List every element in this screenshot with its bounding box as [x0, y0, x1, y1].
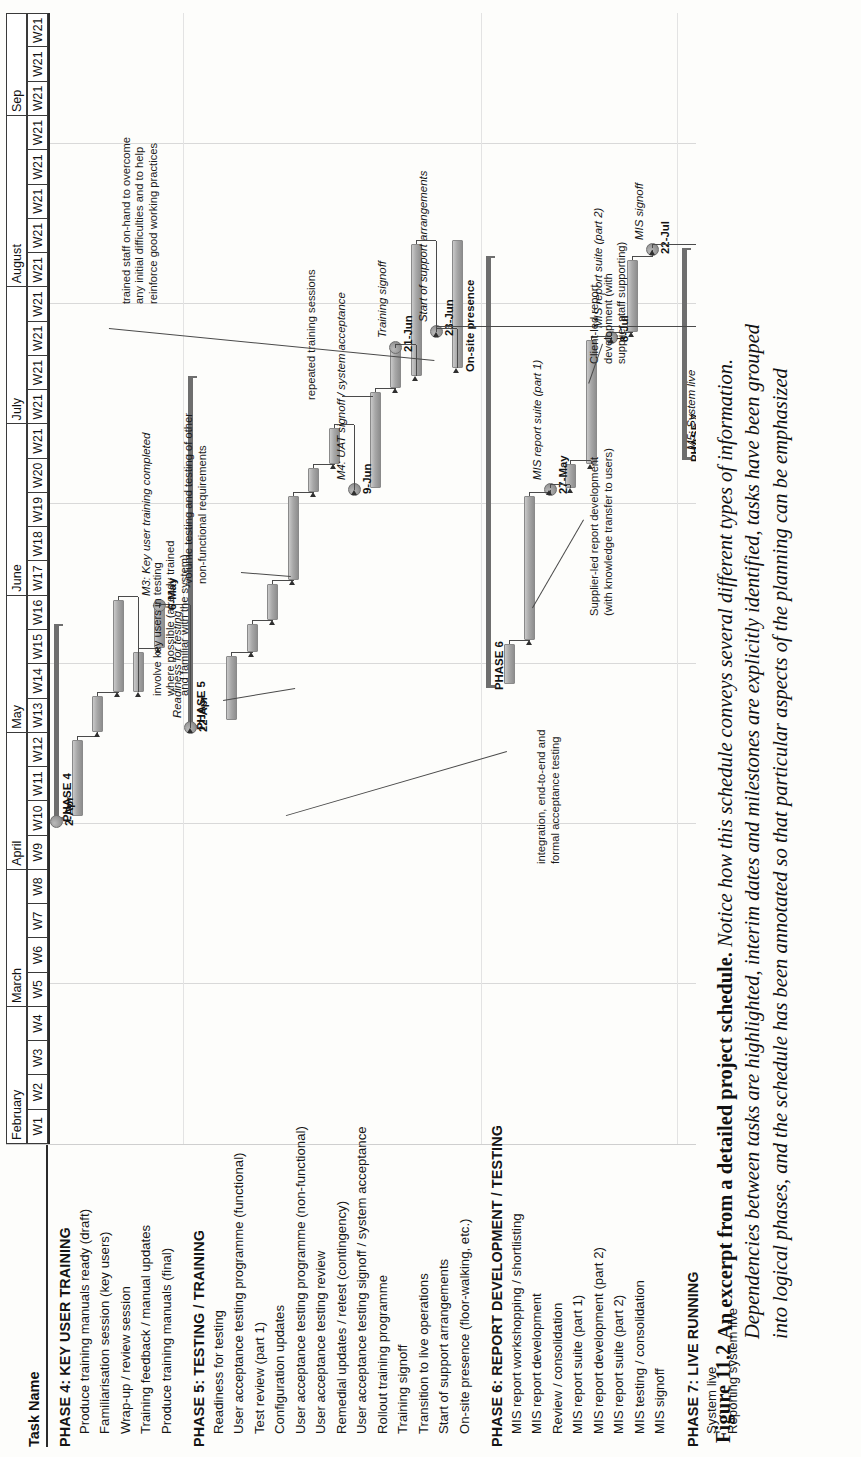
milestone-date-label: 21-Jun — [402, 315, 414, 352]
month-header-cell: June — [6, 424, 27, 595]
figure-body-line3: into logical phases, and the schedule ha… — [767, 368, 794, 1339]
milestone-name-label: M5: System live — [685, 370, 696, 450]
chart-annotation: integration, end-to-end and formal accep… — [535, 730, 562, 864]
week-header-cell: W12 — [27, 733, 48, 767]
week-header-cell: W21 — [27, 150, 48, 184]
week-header-cell: W13 — [27, 699, 48, 733]
month-gridline — [50, 823, 696, 824]
figure-caption: Figure 11.2 An excerpt from a detailed p… — [712, 17, 842, 1457]
task-name-column: Task Name PHASE 4: KEY USER TRAININGProd… — [6, 1144, 696, 1447]
phase-heading-row[interactable]: PHASE 6: REPORT DEVELOPMENT / TESTING — [486, 1145, 507, 1447]
task-row[interactable]: MIS testing / consolidation — [630, 1145, 651, 1447]
dependency-link-horizontal — [436, 241, 437, 332]
dependency-link-vertical — [118, 596, 139, 597]
dependency-arrowhead — [433, 332, 439, 337]
chart-annotation: repeated training sessions — [305, 269, 319, 400]
dependency-arrowhead — [567, 488, 573, 493]
dependency-link-horizontal — [509, 641, 510, 644]
phase-heading-row[interactable]: PHASE 4: KEY USER TRAINING — [54, 1145, 75, 1447]
dependency-link-horizontal — [231, 653, 232, 656]
task-row[interactable]: Wrap-up / review session — [116, 1145, 137, 1447]
phase-bracket-label: PHASE 6 — [493, 641, 505, 690]
task-row[interactable]: Training signoff — [393, 1145, 414, 1447]
dependency-arrowhead — [94, 732, 100, 737]
task-row[interactable]: Produce training manuals (final) — [157, 1145, 178, 1447]
dependency-link-horizontal — [138, 597, 139, 692]
phase-summary-bar — [54, 624, 59, 820]
dependency-arrowhead — [289, 580, 295, 585]
task-row[interactable]: Start of support arrangements — [434, 1145, 455, 1447]
week-header-cell: W17 — [27, 561, 48, 595]
task-row[interactable]: Configuration updates — [270, 1145, 291, 1447]
dependency-arrowhead — [330, 464, 336, 469]
task-row[interactable]: User acceptance testing programme (non-f… — [291, 1145, 312, 1447]
week-header-cell: W21 — [27, 424, 48, 458]
task-row[interactable]: MIS report suite (part 2) — [609, 1145, 630, 1447]
dependency-arrowhead — [392, 388, 398, 393]
month-header-cell: Sep — [6, 13, 27, 116]
week-header-cell: W14 — [27, 664, 48, 698]
dependency-link-vertical — [416, 240, 437, 241]
task-row[interactable]: Transition to live operations — [414, 1145, 435, 1447]
figure-page: Task Name PHASE 4: KEY USER TRAININGProd… — [0, 0, 861, 1457]
week-header-cell: W10 — [27, 801, 48, 835]
task-row[interactable]: On-site presence (floor-walking, etc.) — [455, 1145, 476, 1447]
task-row[interactable]: User acceptance testing review — [311, 1145, 332, 1447]
milestone-name-label: MIS signoff — [633, 183, 645, 240]
week-header-cell: W21 — [27, 48, 48, 82]
rotated-figure-canvas: Task Name PHASE 4: KEY USER TRAININGProd… — [0, 0, 861, 1457]
week-header-cell: W3 — [27, 1041, 48, 1075]
annotation-leader-line — [286, 751, 507, 816]
annotation-leader-line — [532, 519, 584, 607]
task-row[interactable]: User acceptance testing programme (funct… — [229, 1145, 250, 1447]
gantt-plot-area: PHASE 4PHASE 5PHASE 6PHASE 72-AprDraft t… — [48, 13, 696, 1144]
month-header-cell: August — [6, 116, 27, 287]
task-row-spacer — [671, 1145, 682, 1447]
task-row[interactable]: Review / consolidation — [548, 1145, 569, 1447]
month-header-cell: February — [6, 1007, 27, 1144]
week-header-cell: W6 — [27, 938, 48, 972]
week-header-cell: W21 — [27, 116, 48, 150]
task-row[interactable]: MIS report development (part 2) — [589, 1145, 610, 1447]
dependency-arrowhead — [248, 652, 254, 657]
task-row[interactable]: Training feedback / manual updates — [136, 1145, 157, 1447]
milestone-marker — [50, 815, 63, 828]
dependency-link-vertical — [334, 424, 355, 425]
task-row[interactable]: MIS signoff — [650, 1145, 671, 1447]
task-row[interactable]: Remedial updates / retest (contingency) — [332, 1145, 353, 1447]
gantt-bar — [524, 496, 535, 640]
week-header-cell: W21 — [27, 13, 48, 47]
dependency-link-horizontal — [313, 465, 314, 468]
week-header-cell: W20 — [27, 459, 48, 493]
week-header-cell: W1 — [27, 1110, 48, 1144]
task-row[interactable]: Familiarisation session (key users) — [95, 1145, 116, 1447]
dependency-link-horizontal — [529, 493, 530, 496]
task-row[interactable]: Readiness for testing — [209, 1145, 230, 1447]
dependency-arrowhead — [310, 492, 316, 497]
gantt-bar — [267, 584, 278, 620]
dependency-link-horizontal — [416, 241, 417, 244]
month-header-cell: May — [6, 596, 27, 733]
task-row[interactable]: MIS report suite (part 1) — [568, 1145, 589, 1447]
week-header-cell: W21 — [27, 390, 48, 424]
week-header-cell: W7 — [27, 904, 48, 938]
task-row[interactable]: Test review (part 1) — [250, 1145, 271, 1447]
figure-number: Figure 11.2 — [712, 1339, 735, 1443]
week-header-cell: W21 — [27, 287, 48, 321]
chart-annotation: Supplier-led report development (with kn… — [588, 448, 615, 616]
phase-heading-row[interactable]: PHASE 5: TESTING / TRAINING — [188, 1145, 209, 1447]
dependency-link-horizontal — [436, 327, 437, 330]
task-row[interactable]: User acceptance testing signoff / system… — [352, 1145, 373, 1447]
task-row[interactable]: Rollout training programme — [373, 1145, 394, 1447]
task-row[interactable]: MIS report workshopping / shortlisting — [507, 1145, 528, 1447]
task-row[interactable]: MIS report development — [527, 1145, 548, 1447]
annotation-leader-line — [342, 396, 373, 397]
figure-title: An excerpt from a detailed project sched… — [714, 952, 736, 1339]
week-header-cell: W16 — [27, 596, 48, 630]
week-header-cell: W21 — [27, 322, 48, 356]
phase-heading-row[interactable]: PHASE 7: LIVE RUNNING — [682, 1145, 703, 1447]
dependency-link-vertical — [550, 484, 571, 485]
task-row[interactable]: Produce training manuals ready (draft) — [75, 1145, 96, 1447]
month-gridline — [50, 663, 696, 664]
week-header-cell: W19 — [27, 493, 48, 527]
